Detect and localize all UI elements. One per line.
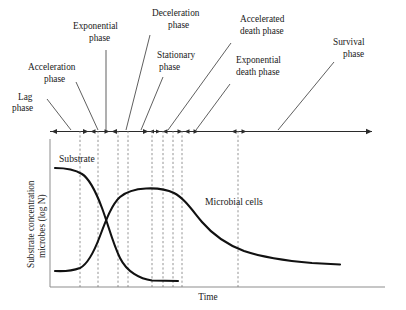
phase-label-accelerated-death-line2: death phase xyxy=(240,26,284,36)
phase-label-exponential-death-line2: death phase xyxy=(236,67,280,77)
phase-label-exponential: Exponential phase xyxy=(73,21,118,43)
phase-label-acceleration-line1: Acceleration xyxy=(28,62,76,72)
phase-label-exponential-line1: Exponential xyxy=(73,21,118,31)
phase-label-accelerated-death-line1: Accelerated xyxy=(240,14,285,24)
phase-axis-end-arrow-icon xyxy=(366,129,372,135)
phase-label-stationary: Stationary phase xyxy=(157,50,196,72)
x-axis-label: Time xyxy=(198,292,217,302)
segment-arrow-deceleration xyxy=(150,129,161,133)
leader-deceleration xyxy=(126,35,150,130)
leader-lag xyxy=(47,99,71,130)
phase-label-stationary-line2: phase xyxy=(159,62,180,72)
phase-label-survival-line1: Survival xyxy=(333,37,365,47)
phase-label-deceleration-line1: Deceleration xyxy=(152,8,200,18)
phase-label-lag: Lag phase xyxy=(12,92,33,113)
series-label-microbial-cells: Microbial cells xyxy=(205,196,263,207)
phase-label-accelerated-death: Accelerated death phase xyxy=(240,14,285,36)
phase-label-group: Lag phase Acceleration phase Exponential… xyxy=(12,8,365,113)
phase-gridlines xyxy=(80,131,238,287)
phase-label-exponential-death-line1: Exponential xyxy=(236,55,281,65)
segment-arrow-lag xyxy=(52,129,89,134)
phase-label-exponential-death: Exponential death phase xyxy=(236,55,281,77)
segment-arrow-stationary xyxy=(163,129,183,134)
y-axis-label-line1: Substrate concentration xyxy=(26,180,36,268)
y-axis-label-line2: microbes (log N) xyxy=(37,194,48,258)
phase-label-acceleration-line2: phase xyxy=(44,74,65,84)
phase-label-stationary-line1: Stationary xyxy=(157,50,196,60)
y-axis-label: Substrate concentration microbes (log N) xyxy=(26,180,48,268)
phase-label-acceleration: Acceleration phase xyxy=(28,62,76,84)
segment-arrow-exponential-death xyxy=(232,129,247,133)
phase-label-deceleration: Deceleration phase xyxy=(152,8,200,30)
leader-survival xyxy=(278,62,334,130)
microbial-growth-phase-diagram: Lag phase Acceleration phase Exponential… xyxy=(0,0,406,310)
curve-substrate xyxy=(55,168,178,281)
phase-label-lag-line2: phase xyxy=(12,103,33,113)
segment-arrow-acceleration xyxy=(91,129,110,134)
phase-label-exponential-line2: phase xyxy=(89,33,110,43)
phase-label-survival-line2: phase xyxy=(343,49,364,59)
leader-acceleration xyxy=(76,82,98,130)
leader-stationary xyxy=(141,77,163,130)
phase-label-lag-line1: Lag xyxy=(18,92,33,102)
phase-label-survival: Survival phase xyxy=(333,37,365,59)
segment-arrow-exponential xyxy=(112,129,149,134)
leader-exponential-death xyxy=(196,84,230,130)
phase-label-deceleration-line2: phase xyxy=(168,20,189,30)
series-label-substrate: Substrate xyxy=(59,153,95,164)
